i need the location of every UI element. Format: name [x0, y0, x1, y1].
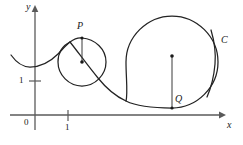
point-p-dot: [80, 36, 83, 39]
curve-c-label: C: [221, 35, 228, 45]
point-p-label: P: [77, 21, 83, 31]
curve-left-tail: [11, 42, 70, 67]
y-axis-label: y: [26, 2, 30, 12]
x-tick-label-1: 1: [65, 123, 70, 132]
large-circle-center-dot: [170, 54, 174, 58]
y-axis-arrow: [32, 5, 39, 12]
x-axis-arrow: [219, 112, 226, 119]
y-tick-label-1: 1: [19, 76, 24, 85]
origin-label: 0: [24, 118, 29, 127]
curve-right-exit: [207, 30, 215, 97]
point-q-label: Q: [175, 94, 182, 104]
math-figure: y x 0 1 1 P Q C: [0, 0, 243, 145]
figure-canvas: [0, 0, 243, 145]
curve-c: [11, 16, 218, 108]
x-axis-label: x: [227, 120, 231, 130]
point-q-dot: [170, 106, 173, 109]
curve-middle-link: [70, 42, 126, 101]
small-circle-center-dot: [80, 60, 84, 64]
axes-group: [10, 5, 226, 130]
